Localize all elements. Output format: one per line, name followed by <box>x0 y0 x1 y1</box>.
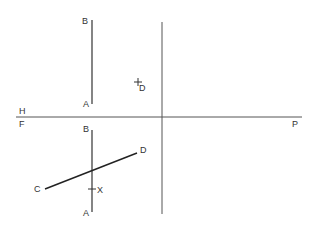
front-view-label-x: X <box>97 185 103 195</box>
front-view-label-a: A <box>83 208 89 218</box>
projection-diagram: B A D H F P B A C D X <box>0 0 317 228</box>
top-view-label-b: B <box>82 16 88 26</box>
front-view-line-cd <box>45 153 137 189</box>
label-h: H <box>19 106 26 116</box>
top-view-label-d: D <box>139 83 146 93</box>
front-view-label-c: C <box>34 184 41 194</box>
label-p: P <box>292 119 298 129</box>
label-f: F <box>19 119 25 129</box>
front-view-label-b: B <box>83 124 89 134</box>
front-view-label-d: D <box>140 145 147 155</box>
top-view-label-a: A <box>83 99 89 109</box>
